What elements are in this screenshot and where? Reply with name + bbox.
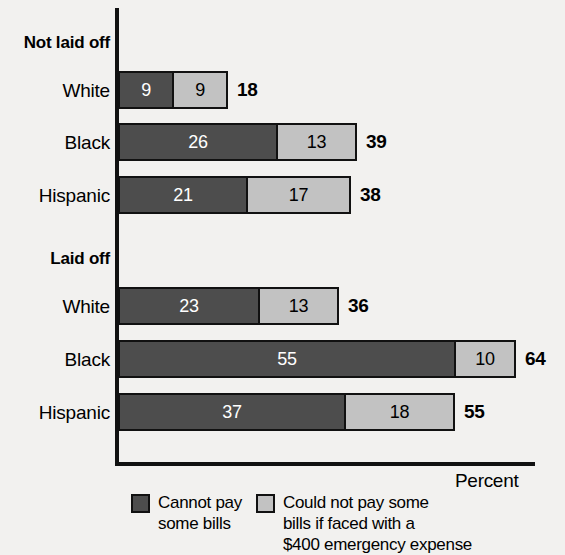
group-header-laid-off: Laid off (50, 249, 110, 269)
bar-segment-could-not-pay: 13 (259, 287, 339, 325)
bar-hispanic-not-laid-off: 21 17 38 (118, 176, 351, 214)
bar-segment-cannot-pay: 21 (118, 176, 247, 214)
bar-segment-could-not-pay: 9 (173, 71, 228, 109)
bar-total-label: 18 (228, 71, 258, 109)
category-label-hispanic-not-laid-off: Hispanic (39, 185, 110, 207)
bar-total-label: 36 (339, 287, 369, 325)
bar-segment-cannot-pay: 55 (118, 340, 455, 378)
legend-item-could-not-pay: Could not pay some bills if faced with a… (256, 492, 472, 555)
bar-segment-could-not-pay: 13 (277, 123, 357, 161)
bar-total-label: 64 (516, 340, 546, 378)
bar-black-not-laid-off: 26 13 39 (118, 123, 357, 161)
bar-total-label: 39 (357, 123, 387, 161)
category-label-white-laid-off: White (62, 296, 110, 318)
bar-segment-cannot-pay: 9 (118, 71, 173, 109)
bar-white-not-laid-off: 9 9 18 (118, 71, 228, 109)
bar-segment-could-not-pay: 17 (247, 176, 351, 214)
legend-item-cannot-pay: Cannot pay some bills (131, 492, 242, 534)
category-label-white-not-laid-off: White (62, 80, 110, 102)
category-label-black-not-laid-off: Black (65, 132, 110, 154)
bar-segment-cannot-pay: 23 (118, 287, 259, 325)
category-label-hispanic-laid-off: Hispanic (39, 402, 110, 424)
bar-total-label: 38 (351, 176, 381, 214)
bar-segment-could-not-pay: 10 (455, 340, 516, 378)
bar-white-laid-off: 23 13 36 (118, 287, 339, 325)
bar-segment-could-not-pay: 18 (345, 393, 455, 431)
bar-segment-cannot-pay: 26 (118, 123, 277, 161)
bar-hispanic-laid-off: 37 18 55 (118, 393, 455, 431)
chart-legend: Cannot pay some bills Could not pay some… (131, 492, 472, 555)
x-axis-line (115, 462, 535, 466)
legend-swatch-dark-icon (131, 494, 150, 513)
bar-segment-cannot-pay: 37 (118, 393, 345, 431)
legend-swatch-light-icon (256, 494, 275, 513)
bar-total-label: 55 (455, 393, 485, 431)
legend-label-could-not-pay: Could not pay some bills if faced with a… (283, 492, 472, 555)
bar-black-laid-off: 55 10 64 (118, 340, 516, 378)
category-label-black-laid-off: Black (65, 349, 110, 371)
x-axis-label: Percent (455, 470, 518, 492)
group-header-not-laid-off: Not laid off (24, 33, 110, 53)
legend-label-cannot-pay: Cannot pay some bills (158, 492, 242, 534)
